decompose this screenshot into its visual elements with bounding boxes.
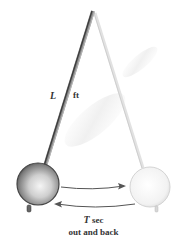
period-label: T sec	[0, 214, 189, 225]
arrow-left	[54, 201, 135, 208]
period-symbol: T	[84, 214, 90, 225]
rod-faded	[94, 13, 143, 168]
period-unit: sec	[92, 215, 104, 225]
pendulum-bob-faded	[130, 167, 170, 212]
length-symbol: L	[50, 91, 56, 101]
length-unit: ft	[73, 91, 79, 100]
period-description: out and back	[0, 227, 189, 237]
pendulum-bob	[17, 163, 59, 212]
arrow-right	[61, 183, 126, 190]
